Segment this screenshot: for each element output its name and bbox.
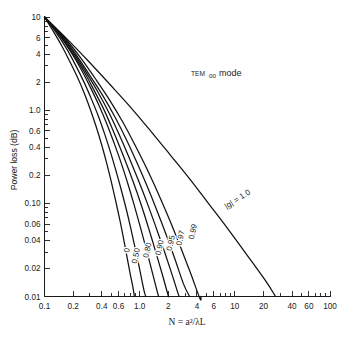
y-tick-label: 0.4: [29, 143, 41, 152]
mode-annotation-prefix: TEM: [191, 70, 205, 77]
y-tick-label: 0.10: [25, 199, 41, 208]
figure-container: 0.10.20.40.61.024610204060100 106421.00.…: [0, 0, 344, 342]
y-axis-title-text: Power loss (dB): [9, 130, 19, 191]
x-axis-title: N = a²/λL: [168, 317, 205, 327]
y-tick-label: 6: [36, 34, 41, 43]
x-tick-label: 4: [195, 302, 200, 311]
mode-annotation-text: mode: [219, 68, 242, 78]
power-loss-chart: 0.10.20.40.61.024610204060100 106421.00.…: [0, 0, 344, 342]
x-axis-title-text: N = a²/λL: [168, 317, 205, 327]
x-tick-label: 20: [259, 302, 269, 311]
x-tick-label: 0.2: [67, 302, 79, 311]
y-tick-label: 0.01: [25, 293, 41, 302]
x-tick-label: 100: [323, 302, 337, 311]
x-tick-label: 10: [230, 302, 240, 311]
x-tick-label: 6: [211, 302, 216, 311]
y-axis-title: Power loss (dB): [9, 130, 19, 191]
y-tick-label: 2: [36, 78, 41, 87]
x-tick-label: 1.0: [134, 302, 146, 311]
y-tick-label: 0.6: [29, 127, 41, 136]
x-tick-label: 0.1: [39, 302, 51, 311]
chart-background: [0, 0, 344, 342]
x-tick-label: 40: [288, 302, 298, 311]
y-tick-label: 0.06: [25, 220, 41, 229]
y-tick-label: 0.2: [29, 171, 41, 180]
y-tick-label: 0.04: [25, 236, 41, 245]
mode-annotation-subscript: 00: [209, 72, 216, 79]
x-tick-label: 2: [166, 302, 171, 311]
y-tick-label: 10: [31, 13, 41, 22]
x-tick-label: 0.4: [96, 302, 108, 311]
y-tick-label: 1.0: [29, 106, 41, 115]
y-tick-label: 0.02: [25, 264, 41, 273]
y-tick-label: 4: [36, 50, 41, 59]
x-tick-label: 60: [304, 302, 314, 311]
x-tick-label: 0.6: [113, 302, 125, 311]
